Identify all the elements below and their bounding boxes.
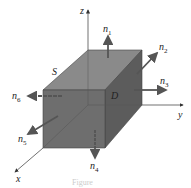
n3-label: n3 [160, 76, 169, 89]
figure-caption: Figure [72, 178, 93, 187]
surface-label: S [52, 67, 57, 77]
box-diagram [0, 0, 191, 188]
region-label: D [111, 91, 118, 101]
x-axis-label: x [16, 174, 20, 184]
n6-label: n6 [12, 91, 21, 104]
n5-label: n5 [18, 134, 27, 147]
n4-label: n4 [90, 161, 99, 174]
z-axis-label: z [80, 6, 84, 16]
n1-label: n1 [103, 24, 112, 37]
n2-label: n2 [159, 42, 168, 55]
figure: z y x S D n1 n2 n3 n4 n5 n6 Figure [0, 0, 191, 188]
x-axis [15, 148, 43, 172]
y-axis-label: y [178, 110, 182, 120]
